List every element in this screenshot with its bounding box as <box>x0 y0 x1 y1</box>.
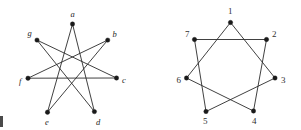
graph-edge <box>206 78 275 112</box>
graph-vertex <box>114 76 118 80</box>
vertex-label: e <box>45 117 49 127</box>
left-graph: abcdefg <box>19 9 126 127</box>
graph-vertex <box>106 38 110 42</box>
graph-vertex <box>70 22 74 26</box>
right-graph: 1234567 <box>177 6 287 126</box>
vertex-label: f <box>19 76 23 86</box>
vertex-label: 1 <box>228 6 233 16</box>
graph-vertex <box>192 37 196 41</box>
vertex-label: c <box>122 75 126 85</box>
vertex-label: 7 <box>185 29 190 39</box>
graph-edge <box>187 78 254 111</box>
graph-vertex <box>228 20 232 24</box>
graph-vertex <box>184 76 188 80</box>
page-edge-artifact <box>0 116 3 127</box>
graph-vertex <box>26 76 30 80</box>
graph-edge <box>28 40 108 78</box>
graph-edge <box>231 23 276 79</box>
graph-vertex <box>204 109 208 113</box>
graph-vertex <box>251 109 255 113</box>
graph-edge <box>37 40 117 78</box>
graph-edge <box>254 40 267 112</box>
graph-vertex <box>35 38 39 42</box>
vertex-label: 4 <box>252 116 257 126</box>
graph-vertex <box>273 76 277 80</box>
graph-edge <box>48 24 73 112</box>
vertex-label: 6 <box>177 75 182 85</box>
vertex-label: d <box>96 117 101 127</box>
graph-edge <box>187 23 231 79</box>
graph-figure-canvas: abcdefg 1234567 <box>0 0 301 130</box>
graph-vertex <box>92 109 96 113</box>
vertex-label: 2 <box>272 29 277 39</box>
vertex-label: 3 <box>281 75 286 85</box>
vertex-label: a <box>71 9 75 19</box>
graph-edge <box>195 40 207 112</box>
vertex-label: g <box>28 28 32 38</box>
vertex-label: 5 <box>203 116 208 126</box>
figure-root: abcdefg 1234567 <box>0 0 301 130</box>
graph-vertex <box>45 110 49 114</box>
vertex-label: b <box>113 29 117 39</box>
graph-vertex <box>264 37 268 41</box>
graph-edge <box>48 40 108 112</box>
